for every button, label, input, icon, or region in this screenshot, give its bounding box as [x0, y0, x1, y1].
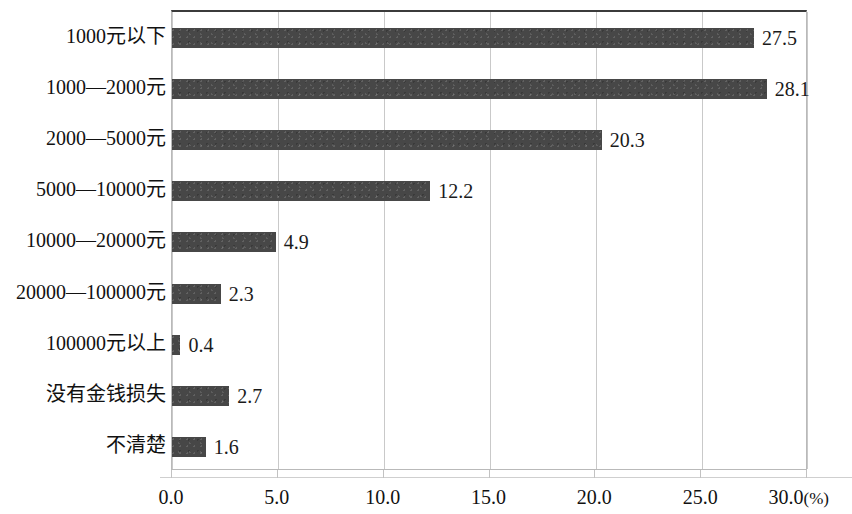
category-label: 100000元以上 [1, 331, 166, 355]
x-tick-label: 0.0 [159, 485, 184, 509]
x-tick-mark [806, 470, 807, 478]
x-tick-label: 20.0 [577, 485, 612, 509]
bar-row: 27.5 [172, 12, 806, 64]
x-tick-label: 30.0(%) [768, 485, 828, 511]
bar[interactable] [172, 130, 602, 150]
bar[interactable] [172, 386, 229, 406]
plot-area: 27.528.120.312.24.92.30.42.71.6 [171, 10, 807, 470]
bar-value-label: 12.2 [438, 179, 473, 203]
bar-value-label: 28.1 [775, 77, 810, 101]
x-tick-label: 15.0 [471, 485, 506, 509]
bar-row: 2.3 [172, 268, 806, 320]
x-tick-mark [700, 470, 701, 478]
bar-row: 1.6 [172, 421, 806, 473]
x-tick-mark [383, 470, 384, 478]
bar-value-label: 1.6 [214, 435, 239, 459]
bar-row: 28.1 [172, 63, 806, 115]
x-tick-label: 10.0 [365, 485, 400, 509]
bar[interactable] [172, 232, 276, 252]
horizontal-bar-chart: 27.528.120.312.24.92.30.42.71.6 1000元以下1… [0, 0, 852, 514]
x-tick-mark [171, 470, 172, 478]
bar[interactable] [172, 28, 754, 48]
category-label: 2000—5000元 [1, 126, 166, 150]
category-label: 10000—20000元 [1, 228, 166, 252]
bar-row: 4.9 [172, 216, 806, 268]
x-tick-mark [489, 470, 490, 478]
category-label: 1000—2000元 [1, 75, 166, 99]
bar[interactable] [172, 79, 767, 99]
bar-row: 0.4 [172, 319, 806, 371]
bar[interactable] [172, 181, 430, 201]
bar-value-label: 20.3 [610, 128, 645, 152]
bar-row: 12.2 [172, 165, 806, 217]
bar-row: 20.3 [172, 114, 806, 166]
bar[interactable] [172, 284, 221, 304]
bar-value-label: 2.7 [237, 384, 262, 408]
bar-value-label: 2.3 [229, 282, 254, 306]
bar-value-label: 4.9 [284, 230, 309, 254]
category-label: 不清楚 [1, 433, 166, 457]
bar-value-label: 27.5 [762, 26, 797, 50]
x-tick-label: 25.0 [683, 485, 718, 509]
x-tick-label: 5.0 [264, 485, 289, 509]
category-label: 1000元以下 [1, 24, 166, 48]
x-tick-mark [594, 470, 595, 478]
bar-value-label: 0.4 [188, 333, 213, 357]
category-axis: 1000元以下1000—2000元2000—5000元5000—10000元10… [0, 10, 166, 470]
category-label: 20000—100000元 [1, 280, 166, 304]
x-tick-mark [277, 470, 278, 478]
bar-row: 2.7 [172, 370, 806, 422]
x-axis-unit-label: (%) [803, 489, 828, 508]
category-label: 5000—10000元 [1, 177, 166, 201]
x-axis-line [160, 477, 852, 478]
category-label: 没有金钱损失 [1, 382, 166, 406]
bar[interactable] [172, 335, 180, 355]
bar[interactable] [172, 437, 206, 457]
